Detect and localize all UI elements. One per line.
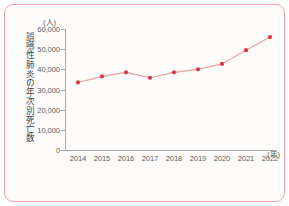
data-point-2022 bbox=[268, 35, 272, 39]
data-point-2014 bbox=[76, 80, 80, 84]
data-point-2019 bbox=[196, 67, 200, 71]
x-tick-label-2019: 2019 bbox=[190, 154, 207, 163]
x-tick-label-2018: 2018 bbox=[166, 154, 183, 163]
series-line-aspiration-pneumonia-deaths bbox=[65, 29, 277, 150]
x-tick-label-2022: 2022 bbox=[262, 154, 279, 163]
x-tick-label-2017: 2017 bbox=[142, 154, 159, 163]
data-point-2020 bbox=[220, 62, 224, 66]
data-point-2017 bbox=[148, 76, 152, 80]
data-point-2018 bbox=[172, 70, 176, 74]
chart-frame: (人) (年) 誤嚥性肺炎の年次別死亡数 60,000 50,000 40,00… bbox=[4, 4, 285, 202]
x-axis-line bbox=[65, 150, 277, 151]
series-polyline bbox=[78, 37, 270, 82]
x-tick-label-2016: 2016 bbox=[118, 154, 135, 163]
x-tick-label-2014: 2014 bbox=[70, 154, 87, 163]
plot-area: 60,000 50,000 40,000 30,000 20,000 10,00… bbox=[65, 29, 277, 150]
x-tick-label-2021: 2021 bbox=[238, 154, 255, 163]
y-axis-title: 誤嚥性肺炎の年次別死亡数 bbox=[20, 32, 33, 150]
data-point-2021 bbox=[244, 48, 248, 52]
data-point-2015 bbox=[100, 74, 104, 78]
data-point-2016 bbox=[124, 70, 128, 74]
series-markers bbox=[76, 35, 272, 85]
x-tick-label-2015: 2015 bbox=[94, 154, 111, 163]
x-tick-label-2020: 2020 bbox=[214, 154, 231, 163]
